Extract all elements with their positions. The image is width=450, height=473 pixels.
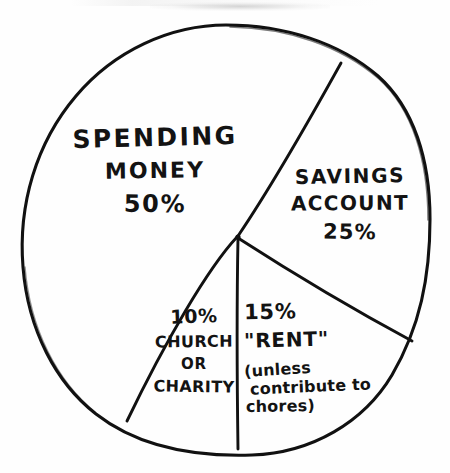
divider-rent-church xyxy=(237,238,238,449)
pie-chart-page: SPENDING MONEY 50% SAVINGS ACCOUNT 25% 1… xyxy=(0,0,450,473)
pie-outline-circle xyxy=(22,25,430,455)
divider-spending-savings xyxy=(238,63,341,236)
pie-chart-drawing xyxy=(0,0,450,473)
pie-outline-second-pass-lower xyxy=(25,267,95,412)
pie-outline-second-pass xyxy=(230,27,428,220)
divider-church-spending xyxy=(127,237,237,421)
divider-savings-rent xyxy=(238,238,412,341)
pie-center-vertex xyxy=(235,234,240,239)
